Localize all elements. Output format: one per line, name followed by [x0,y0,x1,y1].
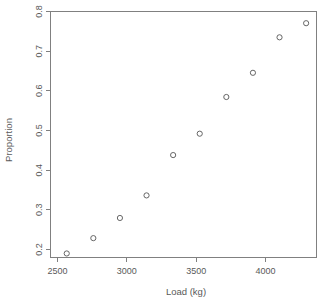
scatter-plot-figure: 0.8 0.7 0.6 0.5 0.4 0.3 0.2 2500 3000 35… [0,0,323,305]
data-point [304,21,309,26]
y-axis-tick-labels: 0.8 0.7 0.6 0.5 0.4 0.3 0.2 [34,5,44,256]
data-point [91,236,96,241]
data-point [144,193,149,198]
data-point [250,70,255,75]
x-axis-ticks [57,258,265,263]
data-point [224,94,229,99]
x-tick-label-4000: 4000 [256,266,276,276]
y-axis-title: Proportion [3,118,14,162]
y-tick-label-0.8: 0.8 [34,5,44,18]
data-point [117,215,122,220]
x-axis-tick-labels: 2500 3000 3500 4000 [47,266,275,276]
y-tick-label-0.5: 0.5 [34,124,44,137]
plot-frame [51,12,317,258]
plot-canvas: 0.8 0.7 0.6 0.5 0.4 0.3 0.2 2500 3000 35… [0,0,323,305]
y-tick-label-0.4: 0.4 [34,164,44,177]
x-axis-title: Load (kg) [166,286,206,297]
y-tick-label-0.6: 0.6 [34,85,44,98]
y-tick-label-0.3: 0.3 [34,204,44,217]
y-tick-label-0.2: 0.2 [34,243,44,256]
x-tick-label-3000: 3000 [117,266,137,276]
x-tick-label-2500: 2500 [47,266,67,276]
data-point [171,152,176,157]
data-point [277,35,282,40]
x-tick-label-3500: 3500 [186,266,206,276]
y-axis-ticks [46,12,51,250]
data-point [197,131,202,136]
data-point-series [64,21,309,256]
y-tick-label-0.7: 0.7 [34,45,44,58]
data-point [64,251,69,256]
